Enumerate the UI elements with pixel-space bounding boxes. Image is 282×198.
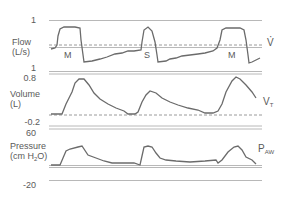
flow-trace xyxy=(51,27,260,63)
pressure-trace xyxy=(51,146,256,165)
volume-trace xyxy=(51,77,256,114)
waveform-plot xyxy=(0,0,282,198)
